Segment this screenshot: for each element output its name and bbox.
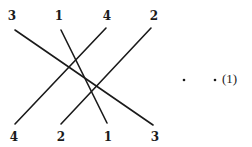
bottom-label-4: 3 [151,130,159,144]
equation-number: (1) [222,71,237,86]
top-labels: 3 1 4 2 [8,9,158,23]
permutation-diagram: 3 1 4 2 4 2 1 3 (1) [0,0,252,147]
equation-marker: (1) [183,71,237,86]
top-label-4: 2 [150,9,158,23]
connection-line-2 [61,28,151,124]
dot-2 [214,79,217,82]
bottom-label-3: 1 [104,130,112,144]
connection-lines [15,28,153,125]
bottom-labels: 4 2 1 3 [10,130,159,144]
bottom-label-1: 4 [10,130,18,144]
top-label-1: 3 [8,9,16,23]
dot-1 [183,79,186,82]
top-label-3: 4 [103,9,111,23]
top-label-2: 1 [55,9,63,23]
bottom-label-2: 2 [57,130,65,144]
connection-line-1 [61,30,107,123]
connection-line-4 [15,28,106,124]
